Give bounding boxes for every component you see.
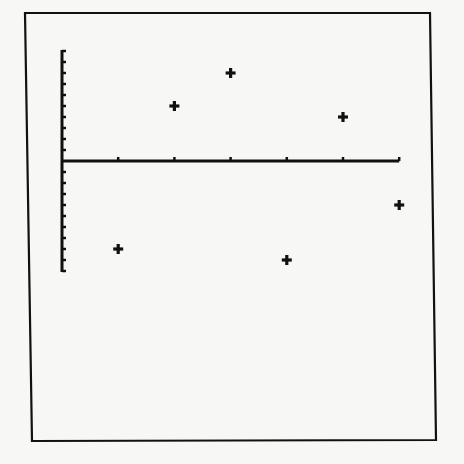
plus-marker-icon [394,200,404,210]
plus-marker-icon [113,244,123,254]
plus-marker-icon [282,255,292,265]
axes [62,50,399,272]
chart-stage [0,0,464,464]
plus-marker-icon [338,112,348,122]
plus-marker-icon [169,101,179,111]
data-points [113,68,404,265]
scatter-plot [0,0,464,464]
plus-marker-icon [226,68,236,78]
